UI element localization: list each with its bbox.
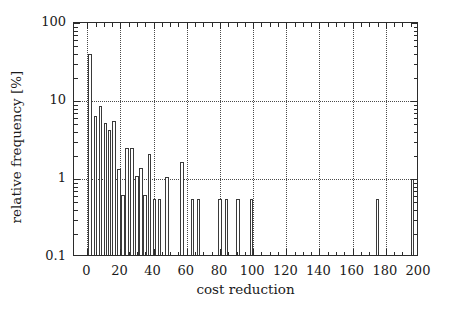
ytick-minor-3 (414, 142, 418, 143)
bar (125, 148, 129, 255)
xtick-minor-105 (261, 23, 262, 27)
ytick-minor-0.30000000000000004 (74, 220, 78, 221)
x-axis-label: cost reduction (73, 281, 418, 297)
ytick-minor-30 (74, 64, 78, 65)
bar (250, 199, 254, 255)
ytick-minor-0.6000000000000001 (414, 196, 418, 197)
xtick-minor-35 (145, 23, 146, 27)
gridline-x-60 (187, 23, 188, 255)
xtick-minor-150 (336, 252, 337, 256)
ytick-minor-80 (74, 31, 78, 32)
ytick-minor-50 (74, 46, 78, 47)
bar (143, 195, 147, 255)
xtick-minor-155 (344, 23, 345, 27)
ytick-minor-0.6000000000000001 (74, 196, 78, 197)
xtick-minor-95 (245, 252, 246, 256)
xtick-minor-75 (212, 23, 213, 27)
xtick-minor-125 (295, 23, 296, 27)
bar (99, 106, 103, 255)
ytick-minor-2 (414, 156, 418, 157)
xtick-minor-115 (278, 23, 279, 27)
gridline-y-10 (74, 101, 417, 102)
xtick-minor-135 (311, 23, 312, 27)
xtick-minor-125 (295, 252, 296, 256)
xticklabel-120: 120 (273, 264, 298, 278)
ytick-major-1 (74, 179, 80, 180)
ytick-minor-0.4 (74, 210, 78, 211)
xtick-minor-85 (228, 23, 229, 27)
xtick-minor-10 (104, 252, 105, 256)
xtick-minor-155 (344, 252, 345, 256)
bar (112, 121, 116, 255)
gridline-x-140 (319, 23, 320, 255)
xtick-minor-165 (361, 252, 362, 256)
xticklabel-200: 200 (406, 264, 431, 278)
xticklabel-160: 160 (339, 264, 364, 278)
xtick-minor-130 (303, 252, 304, 256)
ytick-minor-8 (74, 109, 78, 110)
ytick-minor-90 (414, 27, 418, 28)
xtick-minor-50 (170, 252, 171, 256)
xtick-minor-105 (261, 252, 262, 256)
ytick-minor-20 (74, 78, 78, 79)
xtick-minor-175 (378, 23, 379, 27)
xtick-minor-55 (178, 23, 179, 27)
bar (94, 116, 98, 255)
xtick-major-120 (286, 249, 287, 255)
xtick-minor-110 (270, 23, 271, 27)
ytick-minor-30 (414, 64, 418, 65)
ytick-minor-50 (414, 46, 418, 47)
xtick-minor-15 (112, 252, 113, 256)
xtick-minor-185 (394, 23, 395, 27)
xticklabel-60: 60 (178, 264, 195, 278)
xtick-minor-115 (278, 252, 279, 256)
ytick-minor-6 (414, 118, 418, 119)
bar (180, 162, 184, 255)
xtick-minor-165 (361, 23, 362, 27)
ytick-minor-60 (414, 40, 418, 41)
xtick-minor-85 (228, 252, 229, 256)
ytick-minor-6 (74, 118, 78, 119)
xtick-minor-175 (378, 252, 379, 256)
xtick-minor-95 (245, 23, 246, 27)
ytick-minor-80 (414, 31, 418, 32)
xtick-minor-45 (162, 23, 163, 27)
xtick-minor-15 (112, 23, 113, 27)
bar (191, 199, 195, 255)
ytick-minor-0.8 (414, 187, 418, 188)
ytick-minor-0.9 (74, 183, 78, 184)
xtick-major-120 (286, 23, 287, 29)
ytick-minor-0.30000000000000004 (414, 220, 418, 221)
gridline-x-180 (386, 23, 387, 255)
xtick-minor-90 (237, 252, 238, 256)
bar (108, 130, 112, 255)
yticklabel-0.1: 0.1 (20, 249, 66, 263)
ytick-minor-5 (74, 124, 78, 125)
xtick-minor-50 (170, 23, 171, 27)
xtick-minor-170 (369, 23, 370, 27)
xtick-minor-55 (178, 252, 179, 256)
xtick-major-160 (353, 23, 354, 29)
xtick-major-20 (120, 23, 121, 29)
xtick-major-80 (220, 23, 221, 29)
xtick-minor-135 (311, 252, 312, 256)
bar (139, 168, 143, 255)
xtick-minor-90 (237, 23, 238, 27)
ytick-minor-2 (74, 156, 78, 157)
yticklabel-10: 10 (20, 93, 66, 107)
xtick-minor-145 (328, 23, 329, 27)
xtick-minor-110 (270, 252, 271, 256)
xtick-minor-195 (411, 252, 412, 256)
bar (88, 54, 92, 255)
bar (236, 199, 240, 255)
ytick-major-1 (411, 179, 417, 180)
ytick-minor-0.4 (414, 210, 418, 211)
xtick-major-0 (87, 23, 88, 29)
xtick-minor-150 (336, 23, 337, 27)
xtick-minor-30 (137, 23, 138, 27)
xtick-minor-190 (402, 23, 403, 27)
ytick-minor-7 (74, 113, 78, 114)
ytick-minor-40 (74, 54, 78, 55)
bar (376, 199, 380, 255)
ytick-minor-3 (74, 142, 78, 143)
